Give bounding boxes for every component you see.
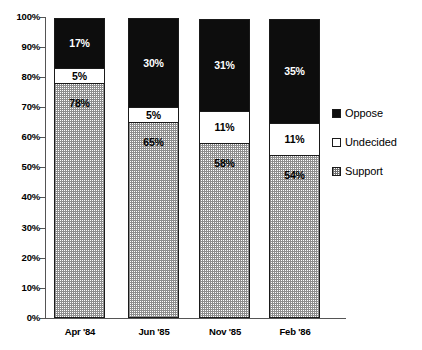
legend-item-label: Undecided — [345, 137, 397, 148]
y-axis-label: 0% — [2, 313, 40, 323]
dotted-square-icon — [332, 167, 341, 176]
y-axis-label: 50% — [2, 162, 40, 172]
bar-segment-undecided: 11% — [199, 111, 250, 144]
y-axis-label: 60% — [2, 132, 40, 142]
bar-segment-undecided: 5% — [54, 68, 105, 84]
white-square-icon — [332, 138, 341, 147]
bar-apr-84: 17% 5% 78% — [54, 18, 105, 318]
bar-segment-oppose: 35% — [269, 19, 320, 124]
bar-segment-support: 78% — [54, 83, 105, 318]
y-axis-label: 20% — [2, 253, 40, 263]
y-axis-label: 30% — [2, 223, 40, 233]
bar-segment-undecided: 5% — [128, 107, 179, 123]
bar-segment-value: 54% — [284, 170, 304, 181]
bar-segment-value: 58% — [214, 158, 234, 169]
y-axis-label: 100% — [2, 12, 40, 22]
bar-segment-oppose: 17% — [54, 18, 105, 69]
y-axis-label: 70% — [2, 102, 40, 112]
bar-segment-value: 5% — [146, 110, 161, 121]
x-axis-label: Feb '86 — [255, 327, 335, 337]
bar-segment-value: 17% — [69, 38, 89, 49]
x-axis-line — [45, 318, 346, 319]
y-axis-label: 40% — [2, 192, 40, 202]
bar-segment-value: 35% — [284, 66, 304, 77]
plot-area: 17% 5% 78% 30% 5% 65% 31% — [45, 17, 345, 318]
bar-segment-value: 5% — [72, 71, 87, 82]
chart-legend: Oppose Undecided Support — [332, 99, 420, 186]
bar-segment-value: 78% — [69, 98, 89, 109]
bar-segment-value: 30% — [143, 58, 163, 69]
legend-item-oppose: Oppose — [332, 99, 420, 128]
black-square-icon — [332, 109, 341, 118]
bar-segment-value: 31% — [214, 60, 234, 71]
x-axis-label: Jun '85 — [114, 327, 194, 337]
bar-segment-support: 65% — [128, 122, 179, 318]
stacked-bar-chart: 100% 90% 80% 70% 60% 50% 40% 30% 20% 10%… — [0, 0, 422, 350]
bar-segment-value: 65% — [143, 137, 163, 148]
y-axis-label: 10% — [2, 283, 40, 293]
bar-segment-value: 11% — [285, 134, 305, 145]
y-axis-label: 90% — [2, 42, 40, 52]
y-axis-tick — [40, 318, 45, 319]
y-axis-label: 80% — [2, 72, 40, 82]
bar-segment-support: 54% — [269, 155, 320, 318]
legend-item-undecided: Undecided — [332, 128, 420, 157]
bar-segment-undecided: 11% — [269, 123, 320, 156]
legend-item-label: Support — [345, 166, 383, 177]
legend-item-support: Support — [332, 157, 420, 186]
bar-segment-support: 58% — [199, 143, 250, 318]
legend-item-label: Oppose — [345, 108, 383, 119]
bar-segment-oppose: 30% — [128, 18, 179, 108]
x-axis-label: Nov '85 — [185, 327, 265, 337]
bar-segment-value: 11% — [215, 122, 235, 133]
bar-feb-86: 35% 11% 54% — [269, 19, 320, 318]
bar-nov-85: 31% 11% 58% — [199, 19, 250, 318]
bar-jun-85: 30% 5% 65% — [128, 18, 179, 318]
x-axis-label: Apr '84 — [40, 327, 120, 337]
bar-segment-oppose: 31% — [199, 19, 250, 112]
